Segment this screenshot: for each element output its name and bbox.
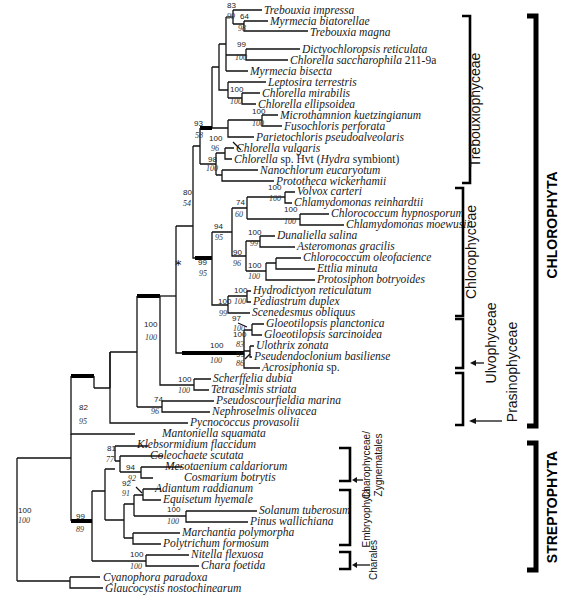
bootstrap-top: 100 <box>178 375 192 384</box>
bootstrap-bottom: 100 <box>234 297 246 306</box>
bootstrap-bottom: 95 <box>199 269 207 278</box>
bracket-charales <box>339 552 350 569</box>
bootstrap-top: 81 <box>107 444 116 453</box>
bootstrap-bottom: 100 <box>269 194 281 203</box>
bootstrap-bottom: 83 <box>236 340 244 349</box>
bootstrap-top: 100 <box>248 261 262 270</box>
bootstrap-top: 100 <box>218 297 232 306</box>
label-prasinophyceae: Prasinophyceae <box>504 322 520 423</box>
bootstrap-top: 100 <box>234 286 248 295</box>
bootstrap-bottom: 60 <box>235 210 243 219</box>
bootstrap-top: 74 <box>236 198 245 207</box>
label-chlorophyta: CHLOROPHYTA <box>544 171 560 278</box>
bracket-prasinophyceae <box>455 373 463 425</box>
bootstrap-bottom: 91 <box>122 489 130 498</box>
bootstrap-top: 90 <box>233 248 242 257</box>
bootstrap-bottom: 77 <box>106 455 115 464</box>
bootstrap-top: 99 <box>76 512 85 521</box>
bootstrap-top: 99 <box>198 258 207 267</box>
bootstrap-bottom: 98 <box>238 24 246 33</box>
label-streptophyta: STREPTOPHYTA <box>544 451 560 563</box>
bootstrap-bottom: 96 <box>233 259 241 268</box>
bootstrap-top: 64 <box>240 12 249 21</box>
bootstrap-top: 100 <box>210 341 224 350</box>
bootstrap-top: 94 <box>214 222 223 231</box>
bootstrap-bottom: 54 <box>183 199 191 208</box>
bootstrap-bottom: 89 <box>76 525 84 534</box>
bootstrap-bottom: 100 <box>206 164 218 173</box>
bootstrap-bottom: 99 <box>227 12 235 21</box>
bootstrap-bottom: 100 <box>230 97 242 106</box>
bootstrap-top: 98 <box>208 155 217 164</box>
bootstrap-bottom: 100 <box>178 386 190 395</box>
bootstrap-bottom: 100 <box>18 516 30 525</box>
bootstrap-top: 80 <box>183 188 192 197</box>
bracket-ulvophyceae <box>455 319 463 368</box>
bootstrap-bottom: 95 <box>215 233 223 242</box>
bootstrap-top: 94 <box>126 463 135 472</box>
taxon-labels: Trebouxia impressa Myrmecia biatorellae … <box>103 4 470 595</box>
clade-brackets: Trebouxiophyceae Chlorophyceae Ulvophyce… <box>339 16 560 580</box>
bootstrap-top: 99 <box>236 350 245 359</box>
bracket-embryophyta <box>339 490 350 545</box>
bootstrap-bottom: 100 <box>210 356 222 365</box>
bootstrap-bottom: 100 <box>252 119 264 128</box>
label-ulvophyceae: Ulvophyceae <box>483 302 499 383</box>
bootstrap-bottom: 99 <box>219 309 227 318</box>
bootstrap-top: 100 <box>233 330 247 339</box>
bootstrap-top: 100 <box>284 205 298 214</box>
bootstrap-top: 100 <box>130 550 144 559</box>
bootstrap-top: 82 <box>79 403 88 412</box>
taxon-label: Trebouxia magna <box>310 26 391 39</box>
phylogenetic-tree: Trebouxia impressa Myrmecia biatorellae … <box>0 0 578 604</box>
bootstrap-top: 92 <box>122 479 131 488</box>
bracket-streptophyta <box>527 443 536 570</box>
taxon-label: Chara foetida <box>201 559 265 572</box>
bootstrap-bottom: 100 <box>284 217 296 226</box>
bootstrap-bottom: 58 <box>195 131 203 140</box>
bootstrap-top: 100 <box>144 320 158 329</box>
bootstrap-top: 100 <box>268 183 282 192</box>
bootstrap-bottom: 100 <box>145 333 157 342</box>
label-zygnematales: Zygnematales <box>373 434 384 497</box>
bootstrap-top: 83 <box>227 1 236 10</box>
bootstrap-top: 97 <box>232 314 241 323</box>
bootstrap-top: 100 <box>209 134 223 143</box>
bootstrap-bottom: 100 <box>235 53 247 62</box>
bootstrap-top: 100 <box>230 85 244 94</box>
bootstrap-bottom: 86 <box>236 359 244 368</box>
asterisk-marker: * <box>175 257 182 272</box>
bootstrap-top: 100 <box>252 107 266 116</box>
bracket-chlorophyta <box>527 16 536 426</box>
label-trebouxiophyceae: Trebouxiophyceae <box>467 52 483 167</box>
bootstrap-bottom: 100 <box>248 272 260 281</box>
bootstrap-bottom: 96 <box>151 407 159 416</box>
bootstrap-top: 99 <box>237 40 246 49</box>
bootstrap-top: 100 <box>167 505 181 514</box>
bootstrap-bottom: 100 <box>130 562 142 571</box>
taxon-label: Chlamydomonas moewusii <box>346 218 470 231</box>
taxon-label: Glaucocystis nostochinearum <box>105 582 241 595</box>
bracket-charophyceae <box>339 448 350 481</box>
bootstrap-top: 74 <box>154 395 163 404</box>
bootstrap-bottom: 96 <box>211 144 219 153</box>
bootstrap-top: 100 <box>18 506 32 515</box>
bootstrap-bottom: 95 <box>79 417 87 426</box>
label-embryophyta: Embryophyta <box>361 488 372 547</box>
bootstrap-bottom: 99 <box>250 239 258 248</box>
bootstrap-top: 93 <box>194 119 203 128</box>
label-chlorophyceae: Chlorophyceae <box>463 205 479 299</box>
label-charales: Charales <box>368 540 379 580</box>
bootstrap-top: 100 <box>248 228 262 237</box>
bootstrap-bottom: 100 <box>167 517 179 526</box>
